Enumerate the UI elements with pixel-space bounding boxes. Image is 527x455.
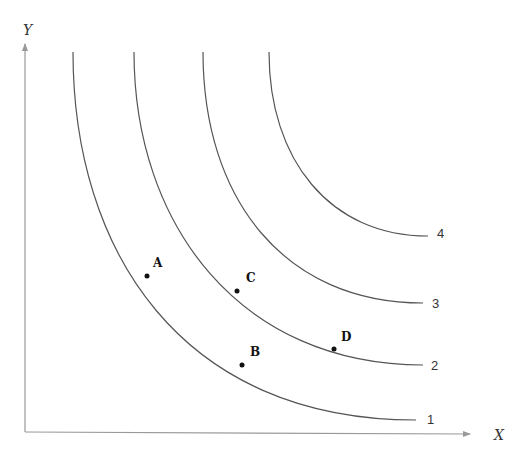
- curve-label-1: 1: [427, 412, 434, 427]
- indifference-curve-3: [203, 52, 423, 303]
- indifference-curve-2: [134, 52, 423, 365]
- curve-label-2: 2: [431, 358, 438, 373]
- curve-label-4: 4: [437, 226, 444, 241]
- point-a-label: A: [153, 256, 162, 270]
- x-axis: [25, 432, 470, 434]
- point-d-label: D: [341, 330, 351, 344]
- point-c-marker: [235, 289, 240, 294]
- indifference-curve-1: [73, 52, 416, 420]
- point-b-label: B: [250, 345, 260, 359]
- indifference-curve-4: [269, 52, 428, 236]
- y-axis-label: Y: [23, 22, 32, 38]
- point-d-marker: [332, 347, 337, 352]
- point-b-marker: [240, 363, 245, 368]
- point-a-marker: [145, 274, 150, 279]
- curve-label-3: 3: [432, 296, 439, 311]
- point-c-label: C: [246, 271, 256, 285]
- x-axis-label: X: [494, 427, 504, 443]
- indifference-curve-diagram: [0, 0, 527, 455]
